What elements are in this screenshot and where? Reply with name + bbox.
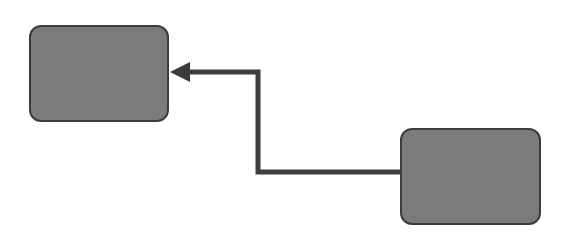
arrowhead-icon — [170, 62, 190, 82]
connector-line[interactable] — [186, 72, 400, 172]
node-a[interactable] — [29, 25, 169, 122]
node-b[interactable] — [400, 128, 541, 225]
diagram-canvas — [0, 0, 574, 240]
